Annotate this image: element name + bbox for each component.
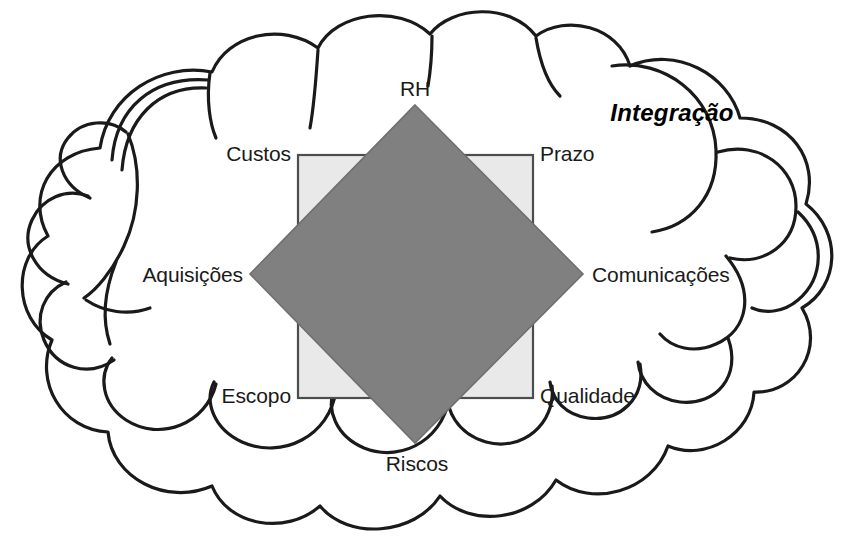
label-riscos: Riscos xyxy=(386,453,448,474)
cloud-bump-left-mid xyxy=(28,193,88,284)
label-aquisicoes: Aquisições xyxy=(142,264,243,285)
label-custos: Custos xyxy=(226,143,291,164)
cloud-bump-bottom-left-2 xyxy=(40,282,114,369)
cloud-bump-left-inner-2 xyxy=(86,300,150,312)
cloud-bump-right-mid xyxy=(718,149,796,259)
label-comunicacoes: Comunicações xyxy=(592,264,730,285)
cloud-notch-4 xyxy=(536,38,560,96)
integracao-title: Integração xyxy=(610,101,733,125)
cloud-notch-2 xyxy=(310,50,318,128)
label-qualidade: Qualidade xyxy=(540,385,635,406)
cloud-bump-bottom-left xyxy=(104,358,216,429)
cloud-bump-right-top xyxy=(612,65,716,232)
diagram-canvas: Integração RH Custos Prazo Aquisições Co… xyxy=(0,0,847,551)
label-prazo: Prazo xyxy=(540,143,594,164)
cloud-notch-1 xyxy=(208,73,216,138)
label-rh: RH xyxy=(400,78,430,99)
label-escopo: Escopo xyxy=(222,385,291,406)
cloud-bump-far-right xyxy=(752,212,818,311)
